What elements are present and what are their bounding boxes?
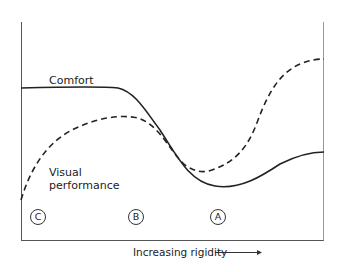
arrow-right-icon [257,250,262,255]
visual-label-line2: performance [49,179,119,192]
visual-label-line1: Visual [49,166,82,179]
x-axis-label: Increasing rigidity [133,246,227,259]
rigidity-diagram [0,0,339,272]
marker-b: B [128,209,144,225]
marker-a: A [210,209,226,225]
marker-c: C [30,209,46,225]
comfort-label: Comfort [49,74,94,87]
